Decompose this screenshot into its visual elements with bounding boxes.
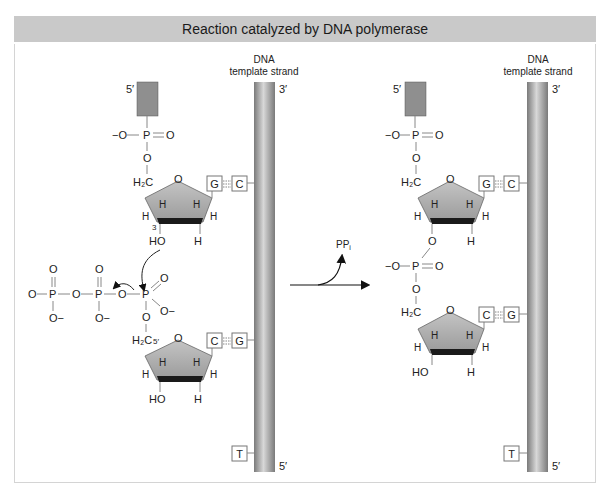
left-bp1-template: C [236,178,244,190]
svg-text:O−: O− [95,312,110,324]
svg-text:H: H [431,330,438,341]
svg-text:O: O [28,288,37,300]
svg-text:O: O [95,263,104,275]
svg-text:H: H [210,369,217,380]
svg-text:DNA: DNA [527,54,548,65]
left-primer-5prime: 5′ [126,83,134,95]
svg-text:3: 3 [152,223,157,232]
svg-text:T: T [508,448,515,460]
svg-text:H₂C: H₂C [401,176,421,188]
svg-text:template strand: template strand [504,66,573,77]
attack-arrow [142,250,160,290]
svg-text:H: H [467,235,475,247]
svg-text:H: H [414,211,421,222]
left-p1-p: P [143,129,150,141]
svg-text:O: O [72,288,81,300]
svg-text:O: O [412,152,421,164]
svg-text:O: O [118,288,127,300]
left-panel: DNA template strand 3′ 5′ 5′ −O P O O H₂… [28,54,298,472]
svg-text:H: H [193,199,200,210]
svg-text:H: H [466,330,473,341]
svg-text:P: P [95,288,102,300]
svg-text:O: O [435,129,444,141]
left-primer-block [137,82,158,116]
svg-text:H: H [193,357,200,368]
left-bp1-primer: G [210,178,219,190]
svg-text:H: H [414,342,421,353]
svg-text:H: H [467,366,475,378]
svg-text:HO: HO [412,366,429,378]
svg-text:G: G [507,309,516,321]
svg-text:H: H [210,211,217,222]
svg-text:O: O [428,235,437,247]
left-sugar-2 [145,340,212,380]
svg-text:O: O [174,332,183,344]
svg-text:H: H [159,199,166,210]
left-p1-odouble: O [166,129,175,141]
left-sugar-1 [145,181,212,222]
svg-text:O−: O− [49,312,64,324]
svg-text:O: O [49,263,58,275]
left-bp2-primer: C [211,335,219,347]
svg-text:H: H [142,211,149,222]
left-strand-5prime: 5′ [279,460,287,472]
svg-text:5′: 5′ [552,460,560,472]
left-strand-label-1: DNA [253,54,274,65]
svg-text:H: H [194,235,202,247]
svg-text:H₂C: H₂C [132,334,152,346]
svg-text:O: O [412,283,421,295]
svg-text:H: H [159,357,166,368]
svg-text:5′: 5′ [153,337,159,346]
svg-text:P: P [412,129,419,141]
svg-text:H: H [466,199,473,210]
left-p1-olink: O [143,152,152,164]
svg-text:O−: O− [160,305,175,317]
pyrophosphate-label: PPi [336,239,351,251]
left-p1-ominus: −O [112,129,127,141]
svg-text:HO: HO [149,393,166,405]
right-panel: DNA template strand 3′ 5′ 5′ −O P O O H₂… [385,54,572,472]
reaction-diagram: DNA template strand 3′ 5′ 5′ −O P O O H₂… [0,0,608,496]
svg-text:H: H [194,393,202,405]
svg-text:3′: 3′ [552,83,560,95]
left-ch2: H₂C [133,176,153,188]
svg-text:H: H [482,211,489,222]
svg-text:P: P [412,260,419,272]
svg-text:H: H [482,342,489,353]
left-template-strand [254,82,275,472]
svg-text:H: H [431,199,438,210]
svg-text:5′: 5′ [393,83,401,95]
svg-text:O: O [446,304,455,316]
left-bp2-template: G [235,335,244,347]
svg-text:C: C [483,309,491,321]
left-strand-3prime: 3′ [279,83,287,95]
svg-text:O: O [142,311,151,323]
svg-text:C: C [508,178,516,190]
svg-text:H: H [142,369,149,380]
svg-text:−O: −O [385,129,400,141]
left-strand-label-2: template strand [230,66,299,77]
svg-text:P: P [49,288,56,300]
svg-text:O: O [446,173,455,185]
svg-text:G: G [482,178,491,190]
svg-text:O: O [435,260,444,272]
svg-text:P: P [142,288,149,300]
svg-text:H₂C: H₂C [401,306,421,318]
right-primer-block [405,82,426,116]
left-3prime-oh: HO [149,235,166,247]
right-template-strand [527,82,548,472]
left-template-t: T [236,448,243,460]
svg-text:O: O [160,272,169,284]
left-ring-o-1: O [174,173,183,185]
svg-text:−O: −O [385,260,400,272]
reaction-arrow: PPi [290,239,368,285]
